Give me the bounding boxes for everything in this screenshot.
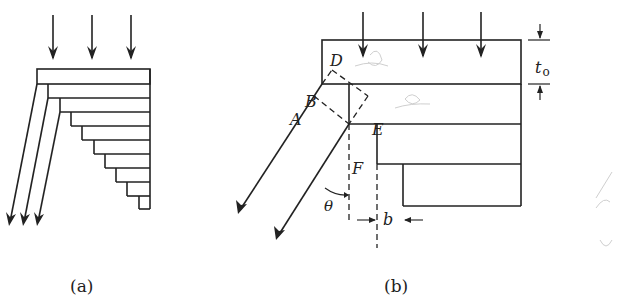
caption-b: (b) [384, 276, 408, 296]
pencil-annotations [355, 51, 612, 246]
plates-b [322, 40, 521, 206]
label-b: b [383, 210, 393, 229]
label-D: D [329, 51, 343, 70]
diagram-canvas: (a) [0, 0, 629, 302]
figure-a [6, 15, 150, 226]
label-B: B [304, 92, 317, 111]
slide-arrows-a [6, 84, 60, 226]
construction-dashes [314, 70, 377, 248]
label-t0: to [535, 58, 550, 79]
caption-a: (a) [70, 276, 93, 296]
label-E: E [371, 120, 384, 139]
label-A: A [288, 110, 302, 129]
label-F: F [351, 159, 364, 178]
load-arrows-a [48, 15, 136, 60]
shear-lines-b [236, 84, 349, 240]
label-theta: θ [324, 197, 333, 215]
